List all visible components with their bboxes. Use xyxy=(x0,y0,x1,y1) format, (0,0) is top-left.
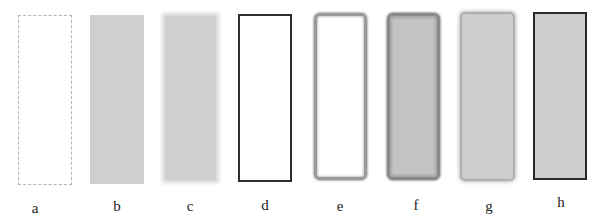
rectangle-gray-solid-outline xyxy=(533,12,587,180)
rectangle-blurred-outline xyxy=(314,13,367,180)
rectangle-gray-blurred-outline xyxy=(387,13,440,180)
panel-label-b: b xyxy=(97,197,137,215)
panel-label-c: c xyxy=(170,197,210,215)
panel-label-e: e xyxy=(320,197,360,215)
rectangle-dashed-outline xyxy=(18,15,72,185)
rectangle-gray-soft-shadow xyxy=(462,14,513,179)
panel-label-f: f xyxy=(396,196,436,214)
rectangle-gray-fill xyxy=(90,15,144,184)
panel-label-a: a xyxy=(15,199,55,217)
panel-label-d: d xyxy=(245,196,285,214)
rectangle-solid-outline xyxy=(238,14,292,182)
rectangle-blurred-fill xyxy=(165,16,216,180)
panel-label-h: h xyxy=(541,193,581,211)
panel-label-g: g xyxy=(469,197,509,215)
